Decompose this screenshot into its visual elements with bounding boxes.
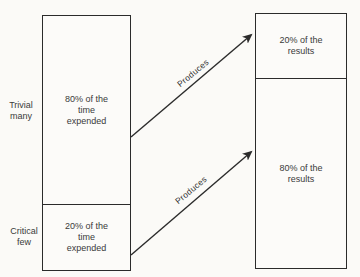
produces-label-bottom: Produces	[173, 174, 209, 206]
time-80-section: 80% of the time expended	[43, 16, 130, 205]
results-bar: 20% of the results 80% of the results	[255, 13, 347, 269]
label-critical-few: Critical few	[3, 226, 45, 248]
produces-arrow-top	[131, 35, 251, 137]
produces-arrow-bottom	[131, 152, 251, 255]
time-expended-bar: 80% of the time expended 20% of the time…	[42, 15, 131, 271]
results-80-section: 80% of the results	[256, 79, 346, 268]
pareto-diagram: Trivial many Critical few 80% of the tim…	[0, 0, 360, 277]
produces-label-top: Produces	[175, 57, 211, 89]
time-20-section: 20% of the time expended	[43, 205, 130, 270]
results-20-section: 20% of the results	[256, 14, 346, 79]
label-trivial-many: Trivial many	[0, 100, 42, 122]
